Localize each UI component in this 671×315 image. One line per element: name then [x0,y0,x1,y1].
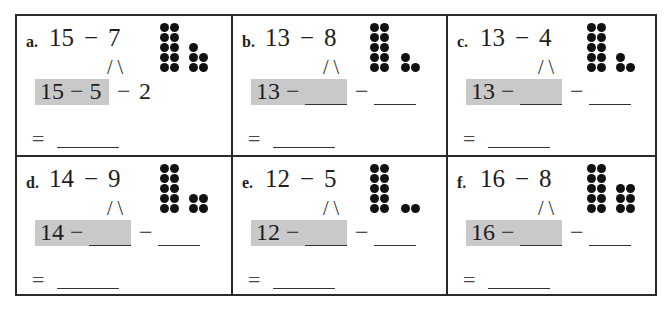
dot-icon [401,53,410,62]
second-part-value: 2 [139,78,151,105]
problem-label: f. [457,174,466,192]
problem-cell-f: f. 16−8 / \ 16 − − = [448,157,662,297]
dot-icon [160,164,169,173]
highlight-expression: 13 − [256,78,300,105]
answer-blank[interactable] [488,147,550,148]
dot-row [401,53,420,62]
dot-icon [370,184,379,193]
dot-icon [587,63,596,72]
subtrahend: 8 [324,24,337,51]
problem-label: a. [26,33,38,51]
dot-icon [370,164,379,173]
first-part-blank[interactable] [305,104,347,105]
ten-frame-dots [370,164,389,213]
equals-sign: = [463,267,475,293]
problem-cell-c: c. 13−4 / \ 13 − − = [448,16,662,156]
dot-icon [597,194,606,203]
minuend: 15 [49,24,74,51]
dot-icon [626,204,635,213]
dot-icon [380,43,389,52]
dot-icon [160,204,169,213]
second-part-blank[interactable] [589,245,631,246]
dot-icon [380,164,389,173]
subtrahend: 9 [108,165,121,192]
ten-frame-dots [587,23,606,72]
answer-blank[interactable] [57,147,119,148]
problem-cell-e: e. 12−5 / \ 12 − − = [233,157,447,297]
split-lines: / \ [107,56,123,79]
dot-icon [411,204,420,213]
answer-blank[interactable] [273,147,335,148]
dot-row [401,63,420,72]
dot-icon [380,174,389,183]
problem-label: b. [242,33,255,51]
dot-icon [160,23,169,32]
problem-expression: 15−7 [49,24,121,52]
second-minus-sign: − [355,78,369,105]
dot-icon [380,53,389,62]
minus-sign: − [515,24,529,52]
dot-row [616,63,635,72]
equals-sign: = [248,126,260,152]
problem-expression: 16−8 [480,165,552,193]
problem-cell-d: d. 14−9 / \ 14 − − = [17,157,231,297]
dot-icon [587,204,596,213]
dot-icon [380,194,389,203]
dot-icon [380,33,389,42]
second-part-blank[interactable] [374,104,416,105]
ten-frame-dots [587,164,606,213]
dot-icon [370,174,379,183]
second-part-blank[interactable] [158,245,200,246]
split-lines: / \ [538,197,554,220]
dot-icon [626,63,635,72]
dot-icon [199,194,208,203]
ones-dots [616,184,635,213]
second-minus-sign: − [139,219,153,246]
highlight-expression: 13 − [471,78,515,105]
subtrahend: 4 [539,24,552,51]
second-part-blank[interactable] [374,245,416,246]
dot-row [616,53,635,62]
second-minus-sign: − [570,78,584,105]
dot-icon [160,33,169,42]
dot-icon [626,184,635,193]
dot-icon [587,33,596,42]
dot-icon [160,174,169,183]
dot-icon [199,204,208,213]
highlight-expression: 12 − [256,219,300,246]
equals-sign: = [32,267,44,293]
dot-row [616,184,635,193]
problem-expression: 14−9 [49,165,121,193]
answer-blank[interactable] [488,288,550,289]
dot-icon [370,204,379,213]
first-part-blank[interactable] [520,245,562,246]
dot-icon [370,33,379,42]
problem-label: c. [457,33,468,51]
minuend: 13 [480,24,505,51]
first-part-blank[interactable] [520,104,562,105]
dot-icon [401,63,410,72]
dot-icon [370,53,379,62]
second-part-blank[interactable] [589,104,631,105]
answer-blank[interactable] [273,288,335,289]
dot-icon [411,63,420,72]
worksheet-table: a. 15−7 / \ 15 − 5 − 2 = b. 13−8 / \ 13 … [15,14,657,296]
dot-icon [587,164,596,173]
split-lines: / \ [323,197,339,220]
dot-icon [160,184,169,193]
first-part-blank[interactable] [89,245,131,246]
dot-icon [587,43,596,52]
first-part-blank[interactable] [305,245,347,246]
answer-blank[interactable] [57,288,119,289]
problem-expression: 13−8 [265,24,337,52]
dot-icon [587,194,596,203]
equals-sign: = [463,126,475,152]
dot-icon [189,43,198,52]
dot-icon [380,23,389,32]
dot-icon [380,63,389,72]
dot-icon [616,184,625,193]
second-minus-sign: − [570,219,584,246]
dot-icon [370,23,379,32]
dot-icon [597,43,606,52]
dot-icon [587,53,596,62]
